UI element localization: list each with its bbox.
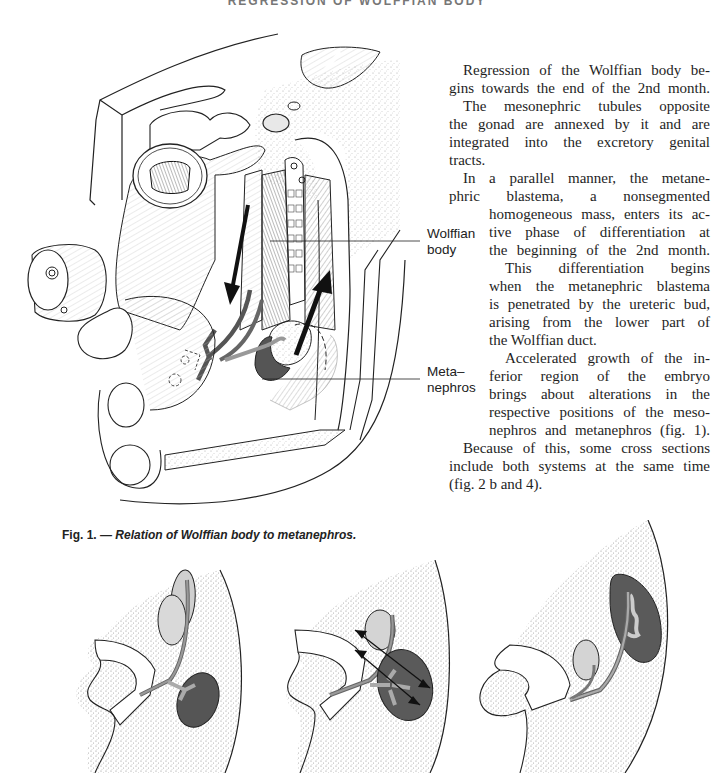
text-line: This differentiation begins [505,259,710,277]
figure-1-caption: Fig. 1. — Relation of Wolffian body to m… [62,528,356,542]
figure-1-illustration [0,10,420,510]
running-header: REGRESSION OF WOLFFIAN BODY [0,0,714,8]
caption-figure-number: Fig. 1. — [62,528,115,542]
label-metanephros: Meta– nephros [427,364,476,396]
text-line: (fig. 2 b and 4). [449,475,710,493]
text-line: integrated into the excretory genital [449,133,710,151]
label-wolffian-body: Wolffian body [427,226,475,258]
text-line: the beginning of the 2nd month. [489,241,710,259]
text-line: the Wolffian duct. [489,331,710,349]
text-line: phric blastema, a nonsegmented [449,187,710,205]
text-line: brings about alterations in the [489,385,710,403]
text-line: In a parallel manner, the metane- [463,169,710,187]
diagram-stage-c [470,520,714,773]
text-line: respective positions of the meso- [489,403,710,421]
caption-text: Relation of Wolffian body to metanephros… [115,528,356,542]
text-line: nephros and metanephros (fig. 1). [489,421,710,439]
diagram-stage-a [60,560,260,773]
text-line: Regression of the Wolffian body be- [463,61,710,79]
text-line: arising from the lower part of [489,313,710,331]
diagram-stage-b [270,560,470,773]
text-line: Because of this, some cross sections [463,439,710,457]
text-line: ferior region of the embryo [489,367,710,385]
text-line: Accelerated growth of the in- [505,349,710,367]
text-line: include both systems at the same time [449,457,710,475]
text-line: homogeneous mass, enters its ac- [489,205,710,223]
text-line: tive phase of differentiation at [489,223,710,241]
text-line: when the metanephric blastema [489,277,710,295]
text-line: is penetrated by the ureteric bud, [489,295,710,313]
text-line: tracts. [449,151,710,169]
text-line: gins towards the end of the 2nd month. [449,79,710,97]
text-line: the gonad are annexed by it and are [449,115,710,133]
text-line: The mesonephric tubules opposite [463,97,710,115]
